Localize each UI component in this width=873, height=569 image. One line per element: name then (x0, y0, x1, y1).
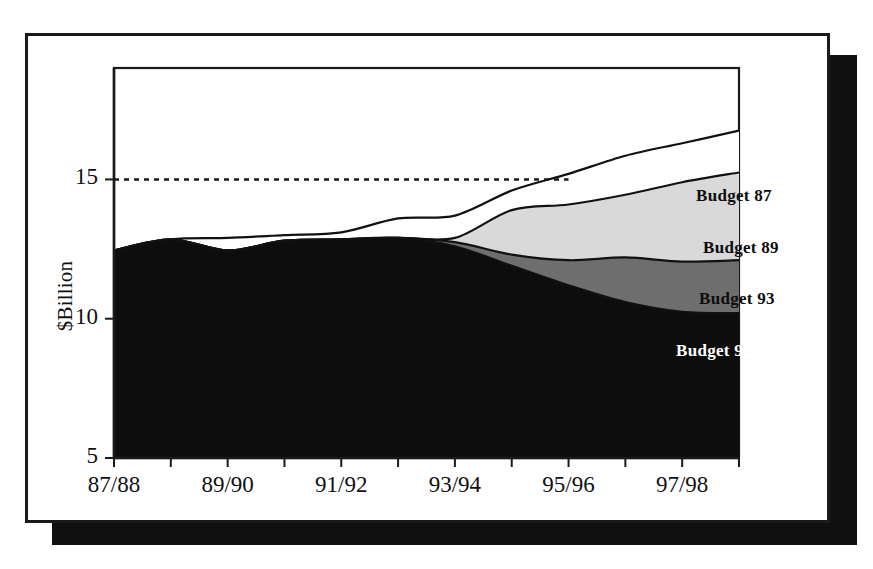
x-tick-label: 91/92 (286, 472, 396, 498)
x-axis-ticks (114, 458, 739, 467)
y-tick-label: 10 (58, 304, 98, 330)
series-label-budget-93: Budget 93 (699, 289, 775, 309)
y-axis-ticks (105, 179, 114, 458)
series-label-budget-94: Budget 94 (676, 341, 752, 361)
y-tick-label: 5 (58, 443, 98, 469)
series-label-budget-89: Budget 89 (703, 238, 779, 258)
x-tick-label: 87/88 (59, 472, 169, 498)
y-axis-title: $Billion (50, 226, 80, 366)
chart-plot (28, 36, 827, 520)
x-tick-label: 89/90 (173, 472, 283, 498)
x-tick-label: 95/96 (514, 472, 624, 498)
figure-frame: $Billion 51015 87/8889/9091/9293/9495/96… (25, 33, 830, 523)
x-tick-label: 97/98 (627, 472, 737, 498)
figure-root: $Billion 51015 87/8889/9091/9293/9495/96… (0, 0, 873, 569)
x-tick-label: 93/94 (400, 472, 510, 498)
y-tick-label: 15 (58, 164, 98, 190)
series-label-budget-87: Budget 87 (696, 186, 772, 206)
